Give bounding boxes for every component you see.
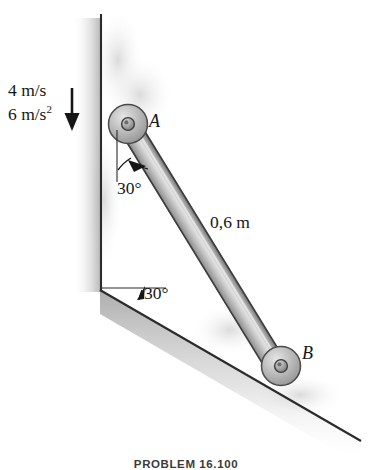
velocity-label: 4 m/s: [8, 82, 46, 100]
mechanics-figure: [0, 0, 372, 470]
point-b-label: B: [302, 344, 313, 362]
roller-a: [109, 105, 148, 144]
point-a-label: A: [149, 112, 160, 130]
bar-length-label: 0,6 m: [210, 214, 250, 232]
acceleration-exponent: 2: [46, 103, 52, 115]
angle-incline-label: 30°: [144, 285, 169, 303]
roller-b: [262, 347, 301, 386]
angle-bar-label: 30°: [117, 180, 142, 198]
vertical-wall: [73, 14, 101, 292]
acceleration-label: 6 m/s2: [8, 106, 52, 124]
figure-caption: PROBLEM 16.100: [0, 458, 372, 470]
acceleration-value: 6 m/s: [8, 104, 46, 124]
